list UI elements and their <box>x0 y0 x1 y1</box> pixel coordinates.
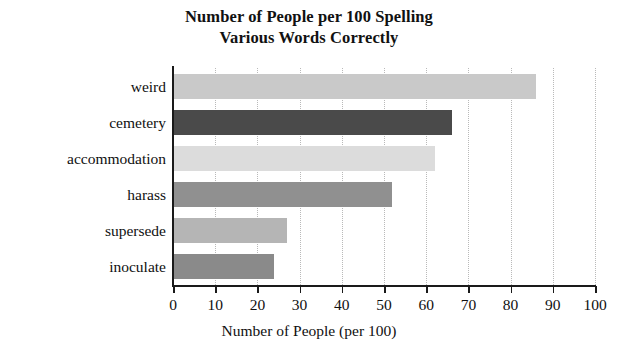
x-tick-mark-70 <box>468 286 470 293</box>
x-tick-label-20: 20 <box>237 296 277 314</box>
x-tick-mark-80 <box>511 286 513 293</box>
bar-supersede[interactable] <box>173 218 287 243</box>
x-tick-label-0: 0 <box>153 296 193 314</box>
y-axis-line <box>172 66 174 287</box>
gridline-60 <box>426 68 427 285</box>
x-tick-mark-10 <box>215 286 217 293</box>
bar-accommodation[interactable] <box>173 146 435 171</box>
category-label-accommodation: accommodation <box>67 150 166 167</box>
x-tick-label-70: 70 <box>448 296 488 314</box>
x-tick-mark-20 <box>257 286 259 293</box>
bar-fill-inoculate <box>173 254 274 279</box>
category-label-harass: harass <box>127 186 166 203</box>
gridline-90 <box>553 68 554 285</box>
bar-chart: Number of People per 100 Spelling Variou… <box>0 0 618 361</box>
gridline-30 <box>300 68 301 285</box>
x-tick-label-50: 50 <box>364 296 404 314</box>
gridline-70 <box>468 68 469 285</box>
bar-fill-accommodation <box>173 146 435 171</box>
x-tick-label-90: 90 <box>533 296 573 314</box>
x-tick-label-80: 80 <box>491 296 531 314</box>
bar-harass[interactable] <box>173 182 392 207</box>
bar-fill-weird <box>173 74 536 99</box>
x-tick-label-60: 60 <box>406 296 446 314</box>
x-tick-mark-30 <box>300 286 302 293</box>
x-tick-label-100: 100 <box>575 296 615 314</box>
bar-fill-supersede <box>173 218 287 243</box>
x-axis-title: Number of People (per 100) <box>0 322 618 340</box>
x-tick-label-40: 40 <box>322 296 362 314</box>
chart-title: Number of People per 100 Spelling Variou… <box>0 6 618 48</box>
x-tick-mark-60 <box>426 286 428 293</box>
plot-area <box>173 68 595 285</box>
chart-title-line-1: Number of People per 100 Spelling <box>0 6 618 27</box>
category-label-weird: weird <box>131 78 166 95</box>
gridline-100 <box>595 68 596 285</box>
x-tick-mark-50 <box>384 286 386 293</box>
x-tick-label-30: 30 <box>280 296 320 314</box>
bar-inoculate[interactable] <box>173 254 274 279</box>
bar-fill-harass <box>173 182 392 207</box>
category-label-cemetery: cemetery <box>109 114 166 131</box>
x-tick-mark-90 <box>553 286 555 293</box>
x-tick-mark-40 <box>342 286 344 293</box>
chart-title-line-2: Various Words Correctly <box>0 27 618 48</box>
bar-weird[interactable] <box>173 74 536 99</box>
gridline-80 <box>511 68 512 285</box>
x-tick-mark-100 <box>595 286 597 293</box>
gridline-10 <box>215 68 216 285</box>
x-tick-label-10: 10 <box>195 296 235 314</box>
bar-cemetery[interactable] <box>173 110 452 135</box>
category-label-inoculate: inoculate <box>109 258 166 275</box>
bar-fill-cemetery <box>173 110 452 135</box>
category-label-supersede: supersede <box>105 222 166 239</box>
gridline-50 <box>384 68 385 285</box>
x-tick-mark-0 <box>173 286 175 293</box>
gridline-40 <box>342 68 343 285</box>
gridline-20 <box>257 68 258 285</box>
